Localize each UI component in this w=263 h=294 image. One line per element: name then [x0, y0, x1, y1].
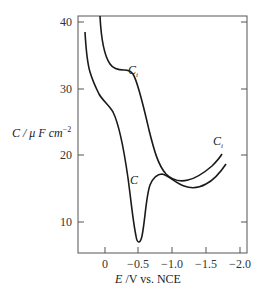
x-axis-ticks	[105, 247, 240, 253]
y-axis-label-text: C / μ F cm	[12, 126, 63, 140]
x-tick-2-0: −2.0	[229, 257, 251, 271]
y-tick-40: 40	[60, 15, 72, 29]
y-axis-label-sup: −2	[63, 125, 72, 134]
curve-c	[85, 32, 226, 242]
label-ci-right: Ci	[213, 134, 223, 150]
x-axis-label-rest: /V vs. NCE	[122, 272, 180, 286]
x-axis-label: E /V vs. NCE	[114, 272, 181, 286]
x-tick-1-0: −1.0	[161, 257, 183, 271]
curve-ci	[100, 16, 222, 181]
y-tick-20: 20	[60, 148, 72, 162]
x-tick-0: 0	[102, 257, 108, 271]
y-axis-label: C / μ F cm−2	[12, 125, 71, 140]
y-axis-ticks	[78, 22, 247, 222]
x-tick-1-5: −1.5	[195, 257, 217, 271]
x-tick-0-5: −0.5	[127, 257, 149, 271]
y-tick-10: 10	[60, 215, 72, 229]
y-tick-30: 30	[60, 82, 72, 96]
plot-frame	[78, 16, 247, 253]
capacitance-chart: 40 30 20 10 0 −0.5 −1.0 −1.5 −2.0 C / μ …	[0, 0, 263, 294]
label-c: C	[130, 173, 139, 187]
label-ci-upper: Ci	[128, 63, 138, 79]
